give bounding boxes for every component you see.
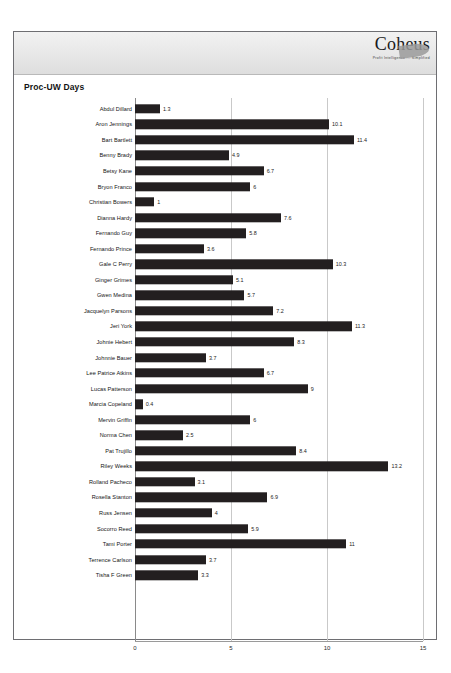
bar[interactable]: [135, 291, 244, 300]
bar-row: Gale C Perry10.3: [14, 256, 436, 272]
bar-row: Mervin Griffin6: [14, 412, 436, 428]
category-label: Aron Jennings: [14, 121, 132, 127]
category-label: Bryon Franco: [14, 184, 132, 190]
bar[interactable]: [135, 570, 198, 579]
bar-row: Russ Jensen4: [14, 505, 436, 521]
bar-value-label: 5.8: [249, 230, 257, 236]
bar[interactable]: [135, 384, 308, 393]
bar[interactable]: [135, 337, 294, 346]
bar-row: Fernando Prince3.6: [14, 241, 436, 257]
x-tick-label: 0: [133, 645, 136, 651]
bar-value-label: 3.6: [207, 246, 215, 252]
bar-row: Johnie Hebert8.3: [14, 334, 436, 350]
bar-row: Bryon Franco6: [14, 179, 436, 195]
bar-row: Norma Chen2.5: [14, 427, 436, 443]
bar-value-label: 2.5: [186, 432, 194, 438]
category-label: Ginger Grimes: [14, 277, 132, 283]
bar[interactable]: [135, 275, 233, 284]
bar-value-label: 7.2: [276, 308, 284, 314]
bar[interactable]: [135, 493, 267, 502]
bar-value-label: 11.3: [355, 323, 365, 329]
bar[interactable]: [135, 213, 281, 222]
bar[interactable]: [135, 477, 195, 486]
bar-value-label: 5.7: [247, 292, 255, 298]
bar-value-label: 8.3: [297, 339, 305, 345]
bar[interactable]: [135, 431, 183, 440]
bar-value-label: 1.3: [163, 106, 171, 112]
bar-row: Jeri York11.3: [14, 319, 436, 335]
bar-value-label: 6.7: [267, 168, 275, 174]
bar-row: Tisha F Green3.3: [14, 567, 436, 583]
category-label: Bart Bartlett: [14, 137, 132, 143]
category-label: Gale C Perry: [14, 261, 132, 267]
bar[interactable]: [135, 462, 388, 471]
category-label: Benny Brady: [14, 152, 132, 158]
bar-row: Aron Jennings10.1: [14, 117, 436, 133]
bar[interactable]: [135, 151, 229, 160]
category-label: Christian Bowers: [14, 199, 132, 205]
bar-row: Lucas Patterson9: [14, 381, 436, 397]
bar[interactable]: [135, 306, 273, 315]
bar[interactable]: [135, 182, 250, 191]
category-label: Lee Patrice Atkins: [14, 370, 132, 376]
bar-value-label: 0.4: [146, 401, 154, 407]
chart-plot-area: Abdul Dillard1.3Aron Jennings10.1Bart Ba…: [14, 98, 436, 639]
bar-value-label: 6.7: [267, 370, 275, 376]
bar[interactable]: [135, 555, 206, 564]
bar-row: Benny Brady4.9: [14, 148, 436, 164]
bar-row: Rosella Stanton6.9: [14, 490, 436, 506]
bar-value-label: 13.2: [391, 463, 402, 469]
bar-row: Socorro Reed5.9: [14, 521, 436, 537]
bar-row: Betsy Kane6.7: [14, 163, 436, 179]
bar-row: Fernando Guy5.8: [14, 225, 436, 241]
bar-value-label: 1: [157, 199, 160, 205]
bar[interactable]: [135, 353, 206, 362]
bar[interactable]: [135, 228, 246, 237]
bar-row: Johnnie Bauer3.7: [14, 350, 436, 366]
category-label: Betsy Kane: [14, 168, 132, 174]
bar[interactable]: [135, 415, 250, 424]
bar-row: Marcia Copeland0.4: [14, 396, 436, 412]
bar-value-label: 9: [311, 386, 314, 392]
bar-value-label: 10.3: [336, 261, 347, 267]
category-label: Rosella Stanton: [14, 494, 132, 500]
bar[interactable]: [135, 322, 352, 331]
bar[interactable]: [135, 135, 354, 144]
bar-value-label: 5.9: [251, 526, 259, 532]
bar[interactable]: [135, 120, 329, 129]
x-tick-label: 10: [324, 645, 331, 651]
category-label: Lucas Patterson: [14, 386, 132, 392]
category-label: Johnnie Bauer: [14, 355, 132, 361]
bar-row: Dianna Hardy7.6: [14, 210, 436, 226]
bar-value-label: 10.1: [332, 121, 343, 127]
bar[interactable]: [135, 508, 212, 517]
category-label: Socorro Reed: [14, 526, 132, 532]
bar[interactable]: [135, 368, 264, 377]
bar-value-label: 3.3: [201, 572, 209, 578]
bar[interactable]: [135, 539, 346, 548]
bar[interactable]: [135, 260, 333, 269]
bar-row: Tami Porter11: [14, 536, 436, 552]
category-label: Johnie Hebert: [14, 339, 132, 345]
bar[interactable]: [135, 524, 248, 533]
bar-value-label: 3.1: [198, 479, 206, 485]
report-header-band: Coheus Profit Intelligence ... Simplifie…: [14, 32, 436, 75]
bar[interactable]: [135, 104, 160, 113]
bar-value-label: 3.7: [209, 355, 217, 361]
bar[interactable]: [135, 446, 296, 455]
category-label: Pat Trujillo: [14, 448, 132, 454]
bar-row: Bart Bartlett11.4: [14, 132, 436, 148]
category-label: Marcia Copeland: [14, 401, 132, 407]
bar-value-label: 7.6: [284, 215, 292, 221]
bar[interactable]: [135, 166, 264, 175]
bar[interactable]: [135, 197, 154, 206]
bar-row: Ginger Grimes5.1: [14, 272, 436, 288]
bar-row: Terrence Carlson3.7: [14, 552, 436, 568]
category-label: Jeri York: [14, 323, 132, 329]
category-label: Tisha F Green: [14, 572, 132, 578]
bar[interactable]: [135, 399, 143, 408]
bar-value-label: 5.1: [236, 277, 244, 283]
bar[interactable]: [135, 244, 204, 253]
bar-value-label: 4.9: [232, 152, 240, 158]
category-label: Norma Chen: [14, 432, 132, 438]
